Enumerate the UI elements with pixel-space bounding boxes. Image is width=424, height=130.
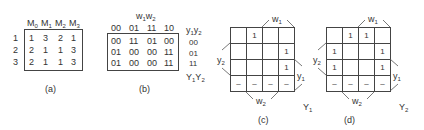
caption-d: (d) [344, 115, 355, 125]
kmap-d-label-y2: y2 [313, 55, 321, 65]
kmap-d-label-y1: y1 [393, 71, 401, 81]
kmap-d-label-w1: w1 [368, 14, 378, 24]
kmap-d-label-w2: w2 [352, 96, 362, 106]
kmap-d-function-Y2: Y2 [399, 102, 408, 112]
kmap-d-brackets [0, 0, 424, 130]
